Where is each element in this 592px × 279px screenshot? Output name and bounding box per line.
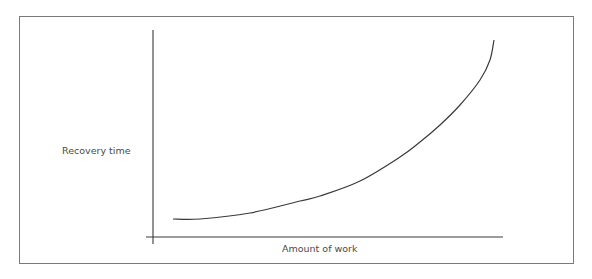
curve-plot — [0, 0, 592, 279]
y-axis-label: Recovery time — [62, 145, 152, 156]
recovery-curve — [173, 40, 494, 219]
x-axis-label: Amount of work — [282, 243, 358, 254]
